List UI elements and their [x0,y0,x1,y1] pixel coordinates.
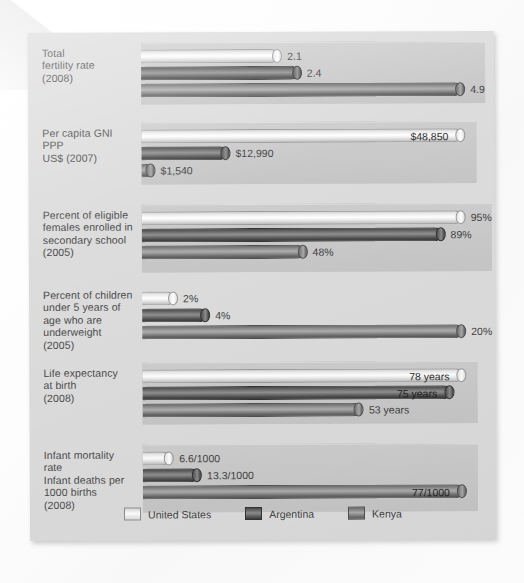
bar-group: 6.6/100013.3/100077/1000 [143,443,478,506]
bar-ar[interactable] [141,66,298,81]
bar-value-label: $48,850 [410,129,448,143]
bar-ar[interactable] [143,468,198,482]
bar-row: 13.3/1000 [143,467,478,482]
legend-swatch-icon [124,508,141,521]
page-background: Totalfertility rate(2008)2.12.44.9Per ca… [0,0,524,583]
bar-value-label: 95% [471,210,492,224]
row-label-line: at birth [43,379,142,392]
chart-card: Totalfertility rate(2008)2.12.44.9Per ca… [28,31,496,541]
bar-us[interactable]: 78 years [142,368,462,383]
bar-end-cap [457,484,467,498]
bar-value-label: 77/1000 [412,485,450,499]
bar-ke[interactable] [142,324,462,339]
bar-end-cap [436,227,446,241]
legend-item-ke[interactable]: Kenya [348,506,402,519]
bar-end-cap [297,245,307,259]
row-label-line: Percent of children [43,289,142,302]
bar-ar[interactable] [142,308,206,322]
bar-end-cap [164,451,174,465]
bar-us[interactable] [141,49,278,64]
chart-row: Percent of eligiblefemales enrolled inse… [29,203,495,273]
bar-row: $1,540 [141,162,476,177]
bar-us[interactable] [142,210,462,225]
bar-row: 2% [142,290,492,306]
bar-value-label: 13.3/1000 [207,468,254,482]
row-label-line: Life expectancy [43,367,142,380]
row-label-line: 1000 births [44,486,143,499]
bar-ke[interactable] [143,403,360,418]
bar-end-cap [200,308,210,322]
bar-row: $12,990 [141,145,476,160]
row-label-line: Per capita GNI [42,127,141,140]
bar-ke[interactable] [141,82,461,97]
row-label-line: age who are [43,313,142,326]
bar-ar[interactable] [142,227,442,242]
bar-end-cap [146,163,156,177]
bar-us[interactable] [143,451,170,465]
bar-row: 2.1 [141,48,485,63]
bar-value-label: 6.6/1000 [179,451,220,465]
row-label-line: (2005) [43,246,142,259]
chart-row: Infant mortalityrateInfant deaths per100… [30,443,496,513]
row-label-line: Infant mortality [44,449,143,462]
bar-ke[interactable] [141,163,151,177]
bar-value-label: 75 years [397,386,437,400]
bar-value-label: 2.4 [307,66,322,80]
legend-label: Argentina [269,507,314,519]
chart-row: Life expectancyat birth(2008)78 years75 … [29,361,495,425]
bar-end-cap [168,291,178,305]
bar-group: 78 years75 years53 years [142,361,477,424]
row-band: 95%89%48% [142,203,492,273]
bar-row: 75 years [142,385,477,400]
bar-row: 6.6/1000 [143,450,478,465]
row-label: Life expectancyat birth(2008) [29,363,142,405]
bar-us[interactable] [142,291,174,305]
bar-us[interactable]: $48,850 [141,128,461,143]
chart-rows: Totalfertility rate(2008)2.12.44.9Per ca… [28,31,494,33]
row-band: 78 years75 years53 years [142,361,477,424]
row-label-line: under 5 years of [43,301,142,314]
row-label-line: Total [42,47,141,60]
bar-end-cap [272,49,282,63]
bar-value-label: 48% [312,245,333,259]
row-label-line: US$ (2007) [42,151,141,164]
row-label: Percent of childrenunder 5 years ofage w… [29,285,142,352]
row-band: 2.12.44.9 [141,41,485,104]
row-label-line: PPP [42,139,141,152]
bar-end-cap [192,468,202,482]
chart-row: Per capita GNIPPPUS$ (2007)$48,850$12,99… [28,121,494,185]
legend-item-us[interactable]: United States [124,507,211,520]
bar-end-cap [456,210,466,224]
bar-group: $48,850$12,990$1,540 [141,121,476,184]
legend-swatch-icon [245,507,262,520]
row-label-line: underweight [43,326,142,339]
chart-legend: United StatesArgentinaKenya [30,506,496,521]
bar-value-label: 20% [471,324,492,338]
row-label-line: fertility rate [42,59,141,72]
bar-ar[interactable]: 75 years [142,385,450,400]
bar-row: 77/1000 [143,484,478,499]
bar-group: 95%89%48% [142,203,492,267]
legend-label: Kenya [372,507,402,519]
bar-end-cap [456,368,466,382]
bar-value-label: 53 years [369,402,409,416]
bar-ke[interactable] [142,245,304,260]
bar-ke[interactable]: 77/1000 [143,484,463,499]
row-label-line: Percent of eligible [43,209,142,222]
bar-row: 78 years [142,368,477,383]
bar-end-cap [292,66,302,80]
bar-row: 53 years [143,402,478,417]
legend-label: United States [148,508,211,520]
row-label: Per capita GNIPPPUS$ (2007) [28,123,141,165]
bar-group: 2.12.44.9 [141,41,485,104]
bar-value-label: 2.1 [287,49,302,63]
bar-end-cap [354,403,364,417]
legend-item-ar[interactable]: Argentina [245,507,314,520]
row-label-line: (2008) [42,71,141,84]
bar-ar[interactable] [141,146,226,160]
bar-end-cap [444,385,454,399]
bar-row: 89% [142,227,492,243]
row-band: $48,850$12,990$1,540 [141,121,476,184]
bar-value-label: 4.9 [470,82,485,96]
bar-row: 20% [142,324,492,340]
